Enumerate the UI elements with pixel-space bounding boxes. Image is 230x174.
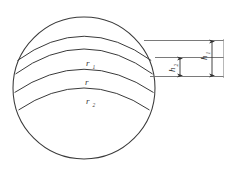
label-h2-subscript: 2 — [173, 64, 179, 67]
diagram-canvas: r 1 r r 2 h 1 h 2 — [0, 0, 230, 174]
label-r2-subscript: 2 — [93, 102, 96, 108]
label-h1: h 1 — [199, 52, 211, 61]
label-r2-base: r — [86, 96, 90, 106]
zone-arc-r1 — [16, 49, 153, 74]
label-r-base: r — [85, 77, 89, 87]
label-r1-subscript: 1 — [93, 64, 96, 70]
label-r1: r 1 — [86, 58, 96, 70]
label-h1-subscript: 1 — [205, 52, 211, 55]
label-h2: h 2 — [167, 64, 179, 73]
label-r2: r 2 — [86, 96, 96, 108]
label-r1-base: r — [86, 58, 90, 68]
label-r: r — [85, 77, 89, 87]
label-h2-base: h — [167, 67, 177, 72]
zone-arc-r2 — [19, 88, 150, 110]
sphere-zones-figure: r 1 r r 2 h 1 h 2 — [0, 0, 230, 174]
label-h1-base: h — [199, 55, 209, 60]
zone-arc-upper-edge — [18, 36, 152, 60]
